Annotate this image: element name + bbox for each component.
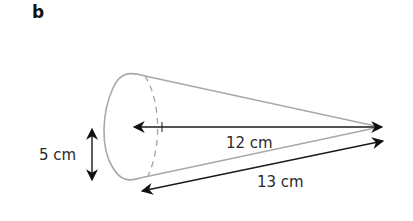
radius-label: 5 cm (39, 146, 76, 164)
cone-base-hidden-edge (145, 76, 158, 176)
height-label: 12 cm (226, 134, 273, 152)
slant-height-label: 13 cm (257, 173, 304, 191)
cone-top-edge (145, 76, 380, 127)
cone-diagram: 5 cm 12 cm 13 cm (0, 0, 413, 221)
